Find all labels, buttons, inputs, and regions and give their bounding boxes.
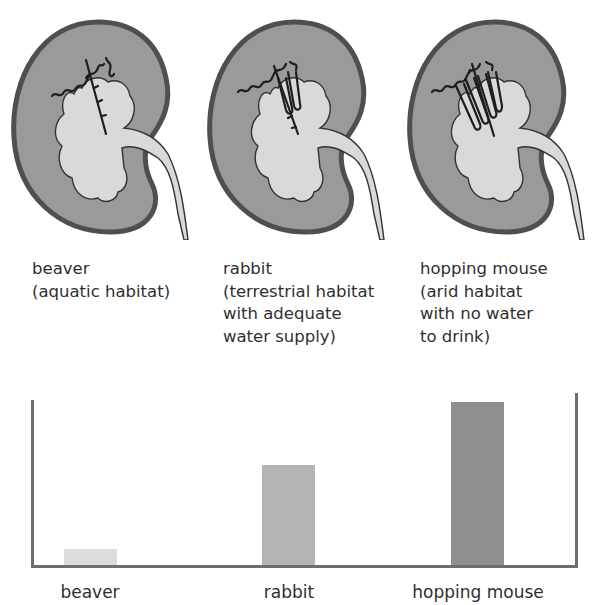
- x-axis-line: [31, 565, 578, 568]
- kidney-diagram-beaver: [2, 18, 202, 240]
- bar-chart: beaver rabbit hopping mouse: [0, 380, 602, 605]
- x-label-rabbit: rabbit: [264, 582, 314, 602]
- kidney-illustration: [2, 18, 202, 240]
- caption-line: with no water: [420, 303, 548, 326]
- kidney-illustration: [198, 18, 398, 240]
- caption-hopping-mouse: hopping mouse (arid habitat with no wate…: [420, 258, 548, 348]
- caption-beaver: beaver (aquatic habitat): [32, 258, 170, 303]
- right-axis-line: [575, 393, 578, 567]
- caption-line: (aquatic habitat): [32, 281, 170, 304]
- caption-rabbit: rabbit (terrestrial habitat with adequat…: [223, 258, 374, 348]
- kidney-diagram-hopping-mouse: [398, 18, 598, 240]
- bar-beaver: [64, 549, 117, 565]
- bar-hopping-mouse: [451, 402, 504, 565]
- caption-line: with adequate: [223, 303, 374, 326]
- caption-line: hopping mouse: [420, 258, 548, 281]
- caption-line: to drink): [420, 326, 548, 349]
- x-label-hopping-mouse: hopping mouse: [412, 582, 544, 602]
- y-axis-line: [31, 400, 34, 567]
- caption-line: (terrestrial habitat: [223, 281, 374, 304]
- kidney-illustration: [398, 18, 598, 240]
- caption-line: water supply): [223, 326, 374, 349]
- bar-rabbit: [262, 465, 315, 565]
- caption-line: beaver: [32, 258, 170, 281]
- caption-line: rabbit: [223, 258, 374, 281]
- kidney-diagram-rabbit: [198, 18, 398, 240]
- caption-line: (arid habitat: [420, 281, 548, 304]
- x-label-beaver: beaver: [60, 582, 119, 602]
